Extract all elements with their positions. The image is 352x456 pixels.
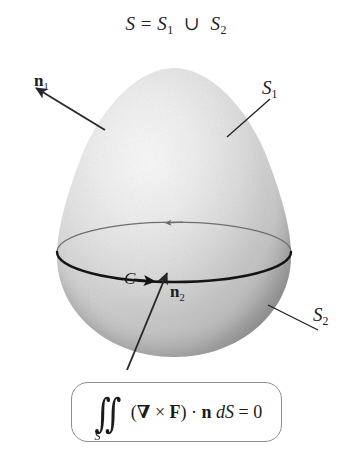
stokes-theorem-formula: ∬S(∇ × F) · n dS = 0: [72, 383, 281, 441]
label-s1-symbol: S: [262, 77, 272, 98]
label-n2-subscript: 2: [179, 292, 184, 303]
cross-product-icon: ×: [155, 402, 165, 423]
formula-vector-n: n: [202, 402, 212, 423]
formula-zero: 0: [253, 402, 262, 423]
label-surface-s2: S2: [313, 305, 328, 328]
formula-vector-F: F: [170, 402, 181, 423]
figure-page: S = S1 ∪ S2: [0, 0, 352, 456]
leader-line-s2: [268, 305, 318, 330]
double-integral-icon: ∬S: [94, 398, 121, 429]
label-s1-subscript: 1: [272, 88, 278, 101]
formula-equals: =: [239, 402, 249, 423]
formula-box: ∬S(∇ × F) · n dS = 0: [71, 382, 282, 442]
integral-subscript-s: S: [94, 432, 100, 441]
label-curve-c: C: [124, 270, 135, 287]
label-normal-vector-n2: n2: [170, 283, 185, 303]
label-surface-s1: S1: [262, 78, 277, 101]
label-s2-subscript: 2: [323, 315, 329, 328]
label-s2-symbol: S: [313, 304, 323, 325]
curve-c-back-arrowhead: [168, 222, 183, 223]
label-n1-subscript: 1: [43, 81, 48, 92]
normal-vector-n1-arrow: [36, 88, 105, 130]
formula-dS: dS: [216, 402, 234, 423]
label-normal-vector-n1: n1: [34, 72, 49, 92]
curve-c-front-arrowhead: [134, 280, 150, 281]
nabla-icon: ∇: [137, 401, 151, 423]
